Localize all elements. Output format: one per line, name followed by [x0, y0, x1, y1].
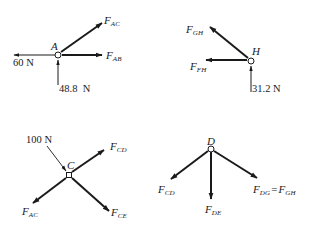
force-label-fdg-equals-fgh: FDG=FGH: [253, 184, 296, 197]
joint-d-label: D: [207, 136, 215, 147]
force-arrow-fgh: [210, 27, 248, 58]
force-label-fab: FAB: [106, 50, 122, 63]
force-label-fce: FCE: [111, 207, 127, 220]
joint-a-node: [55, 52, 61, 58]
force-arrow-fac: [61, 23, 102, 52]
force-label-fac: FAC: [104, 15, 120, 28]
joint-h-node: [248, 58, 254, 64]
load-label-60n: 60 N: [13, 58, 34, 69]
load-label-48-8n: 48.8 N: [59, 84, 90, 95]
joint-h-label: H: [252, 46, 260, 57]
force-label-fde: FDE: [205, 204, 221, 217]
truss-free-body-diagrams: A 60 N 48.8 N FAC FAB H FGH FFH 31.2 N 1…: [0, 0, 319, 228]
force-label-fgh: FGH: [186, 24, 203, 37]
joint-c-label: C: [67, 160, 74, 171]
force-label-fcd: FCD: [110, 141, 127, 154]
force-label-ffh: FFH: [190, 61, 206, 74]
force-label-fcd-d: FCD: [158, 184, 175, 197]
joint-a-diagram: [14, 23, 102, 85]
joint-c-diagram: [33, 146, 109, 211]
force-arrow-fdg: [214, 151, 257, 178]
joint-a-label: A: [51, 41, 58, 52]
force-arrow-fcd: [72, 150, 104, 172]
force-arrow-fce: [72, 178, 109, 211]
force-arrow-fac-c: [33, 178, 66, 203]
force-label-fac-c: FAC: [22, 206, 38, 219]
joint-h-diagram: [206, 27, 254, 92]
joint-c-node: [67, 173, 72, 178]
joint-d-diagram: [171, 146, 257, 199]
force-arrow-fcd-d: [171, 151, 208, 179]
load-label-100n: 100 N: [26, 135, 52, 146]
load-arrow-100n: [47, 146, 66, 171]
load-label-31-2n: 31.2 N: [252, 84, 281, 95]
